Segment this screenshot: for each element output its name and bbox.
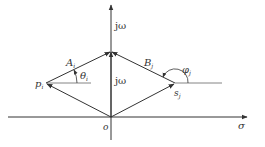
s-plane-diagram: jω jω o σ pi sj Ai Bj θi φj <box>0 0 265 147</box>
vector-A <box>46 52 110 83</box>
vector-A-label: Ai <box>65 57 75 69</box>
zero-label: sj <box>174 88 181 100</box>
origin-label: o <box>103 122 109 132</box>
theta-label: θi <box>80 70 88 82</box>
imag-axis-label: jω <box>114 20 126 31</box>
vector-origin-to-pole <box>47 84 111 117</box>
jw-vector-label: jω <box>114 75 126 86</box>
vector-origin-to-zero <box>111 84 174 117</box>
real-axis-label: σ <box>238 120 246 131</box>
theta-arc <box>74 70 77 83</box>
pole-label: pi <box>35 78 43 90</box>
